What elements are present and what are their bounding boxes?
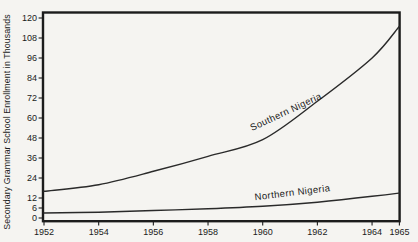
y-tick-label: 120: [22, 13, 37, 23]
y-axis-title: Secondary Grammar School Enrollment in T…: [2, 14, 12, 230]
y-tick-label: 84: [27, 73, 37, 83]
series-label-northern-nigeria: Northern Nigeria: [254, 182, 331, 202]
y-tick-label: 60: [27, 113, 37, 123]
y-tick-label: 96: [27, 53, 37, 63]
y-tick-label: 24: [27, 173, 37, 183]
x-tick-label: 1960: [253, 227, 273, 237]
y-tick-label: 6: [32, 203, 37, 213]
axes-and-lines: 0612243648607284961081201952195419561958…: [22, 13, 409, 237]
x-tick-label: 1956: [143, 227, 163, 237]
series-line-1: [44, 193, 399, 213]
y-tick-label: 36: [27, 153, 37, 163]
x-tick-label: 1965: [389, 227, 409, 237]
y-tick-label: 72: [27, 93, 37, 103]
x-tick-label: 1958: [198, 227, 218, 237]
x-tick-label: 1952: [34, 227, 54, 237]
series-line-0: [44, 26, 399, 191]
x-tick-label: 1954: [89, 227, 109, 237]
plot-frame: [43, 13, 400, 222]
x-tick-label: 1962: [307, 227, 327, 237]
y-tick-label: 48: [27, 133, 37, 143]
chart-figure: 0612243648607284961081201952195419561958…: [0, 0, 418, 242]
y-tick-label: 108: [22, 33, 37, 43]
y-tick-label: 0: [32, 213, 37, 223]
y-tick-label: 12: [27, 193, 37, 203]
x-tick-label: 1964: [362, 227, 382, 237]
series-label-southern-nigeria: Southern Nigeria: [248, 90, 323, 133]
chart-canvas: 0612243648607284961081201952195419561958…: [0, 0, 418, 242]
